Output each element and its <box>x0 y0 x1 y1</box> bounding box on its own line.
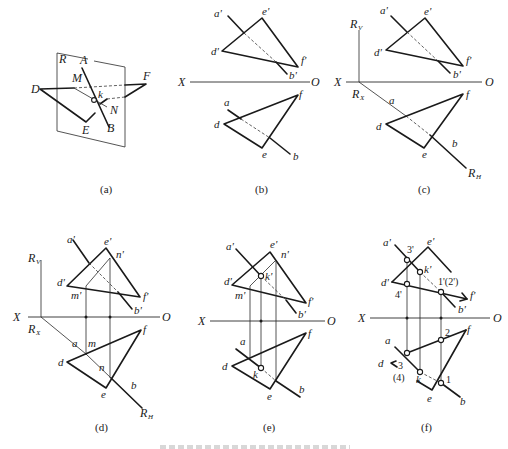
panel-b: X O a' e' d' f' b' a d f e b (b) <box>177 5 320 196</box>
triangle-v-projection <box>386 18 463 66</box>
label-f: f <box>466 88 471 100</box>
label-b: b <box>460 395 466 407</box>
label-e1: e' <box>262 5 270 17</box>
label-e: e <box>101 388 106 400</box>
line-ab-h-visible-2 <box>270 138 290 154</box>
caption-e: (e) <box>263 421 276 434</box>
label-D: D <box>30 82 40 96</box>
caption-b: (b) <box>255 183 268 196</box>
intersection-point-k <box>92 98 97 103</box>
label-N: N <box>109 103 119 117</box>
label-rh-sub: H <box>475 173 482 181</box>
label-b: b <box>131 379 137 391</box>
panel-d: X O R V R X R H a' e' n' d' m' f' b' a m… <box>12 233 171 434</box>
label-b: b <box>293 150 299 162</box>
label-a1: a' <box>214 7 223 19</box>
line-ab-v-visible <box>228 16 244 33</box>
label-rx: R <box>351 87 360 101</box>
label-b1: b' <box>458 303 467 315</box>
label-F: F <box>142 69 151 83</box>
intersection-point-k1 <box>258 273 263 278</box>
triangle-v-projection <box>222 18 298 67</box>
caption-d: (d) <box>95 421 108 434</box>
label-d: d <box>214 118 220 130</box>
projection-figure: R A M D F k N E B (a) X O a' e' d' f' b'… <box>0 0 508 449</box>
label-rh-sub: H <box>147 413 154 421</box>
label-b1: b' <box>453 68 462 80</box>
line-ab-v-visible <box>391 16 407 32</box>
label-A: A <box>79 53 88 67</box>
line-ab-v-hidden <box>244 33 276 62</box>
label-a: a <box>389 94 395 106</box>
trace-rh-1 <box>359 82 406 116</box>
panel-e: X O a' e' n' k' d' m' f' b' a d k f e b … <box>197 238 336 434</box>
panel-f: X O a' 3' e' k' d' 4' 1'(2') f' b' <box>357 235 502 434</box>
panel-a: R A M D F k N E B (a) <box>30 52 151 196</box>
label-rv: R <box>349 17 358 31</box>
label-f1: f' <box>308 295 314 307</box>
label-e1: e' <box>424 5 432 17</box>
label-b: b <box>452 137 458 149</box>
label-f1: f' <box>143 290 149 302</box>
label-M: M <box>71 71 83 85</box>
label-X: X <box>177 75 186 89</box>
point-k1 <box>417 269 422 274</box>
label-e: e <box>427 392 432 404</box>
label-k: k <box>253 368 259 380</box>
label-e: e <box>267 390 272 402</box>
trace-rh-hidden <box>406 116 430 135</box>
label-2: 2 <box>445 327 450 338</box>
axis-point-k <box>260 320 263 323</box>
label-a: a <box>240 335 246 347</box>
line-ab-h-hidden <box>241 119 270 138</box>
label-f: f <box>143 323 148 335</box>
label-O: O <box>327 314 336 328</box>
line-ab-v-hidden <box>407 32 438 61</box>
caption-c: (c) <box>418 183 431 196</box>
label-e1: e' <box>270 238 278 250</box>
triangle-h-projection <box>224 95 298 148</box>
label-rx: R <box>27 322 36 336</box>
label-k1: k' <box>424 263 432 275</box>
label-n: n <box>99 361 105 373</box>
label-rv-sub: V <box>36 258 41 266</box>
label-rh: R <box>139 406 148 420</box>
point-2 <box>438 337 443 342</box>
point-1v-2v <box>438 289 443 294</box>
label-d1: d' <box>224 275 233 287</box>
trace-rh-1 <box>41 317 86 354</box>
label-d: d <box>376 120 382 132</box>
triangle-h-edge-df <box>407 330 466 353</box>
point-1 <box>438 380 443 385</box>
point-3 <box>404 350 409 355</box>
label-rx-sub: X <box>35 329 41 337</box>
caption-f: (f) <box>421 421 432 434</box>
label-a1: a' <box>383 236 392 248</box>
label-d1: d' <box>381 276 390 288</box>
label-b1: b' <box>289 69 298 81</box>
label-X: X <box>333 75 342 89</box>
label-1: 1 <box>446 374 451 385</box>
label-m1: m' <box>235 289 246 301</box>
label-e: e <box>262 148 267 160</box>
label-a: a <box>385 334 391 346</box>
label-X: X <box>357 311 366 325</box>
label-d1: d' <box>57 276 66 288</box>
label-f1: f' <box>470 289 476 301</box>
label-b1: b' <box>298 308 307 320</box>
label-d: d <box>222 360 228 372</box>
label-rv: R <box>27 251 36 265</box>
caption-a: (a) <box>100 183 113 196</box>
line-ab-h-visible-2 <box>276 381 300 397</box>
label-e1: e' <box>104 235 112 247</box>
line-ab-v-visible <box>73 240 89 263</box>
trace-rh-2 <box>430 135 466 168</box>
label-b1: b' <box>134 304 143 316</box>
label-X: X <box>197 314 206 328</box>
triangle-h-stub-d <box>391 361 397 367</box>
label-k1: k' <box>265 270 273 282</box>
label-m1: m' <box>71 289 82 301</box>
plane-r-outline <box>57 53 125 147</box>
label-O: O <box>493 311 502 325</box>
label-O: O <box>311 75 320 89</box>
